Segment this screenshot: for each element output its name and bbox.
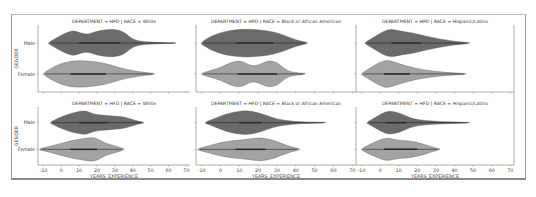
x-tick-label: 30 <box>433 168 439 173</box>
x-tick-label: 20 <box>414 168 420 173</box>
panel-title: DEPARTMENT = HPD | RACE = Hispanic/Latin… <box>382 19 488 25</box>
panel-title: DEPARTMENT = HPD | RACE = White <box>72 19 156 25</box>
x-tick-label: 10 <box>76 168 82 173</box>
x-tick-label: 60 <box>330 168 336 173</box>
x-tick-label: 50 <box>312 168 318 173</box>
y-tick-label: Male <box>24 41 35 46</box>
panel-title: DEPARTMENT = HPD | RACE = Black or Afric… <box>211 19 341 25</box>
x-tick-label: 0 <box>379 168 382 173</box>
facet-panel-6: DEPARTMENT = HFD | RACE = Hispanic/Latin… <box>355 101 515 181</box>
x-tick-label: 50 <box>470 168 476 173</box>
panel-title: DEPARTMENT = HFD | RACE = White <box>72 101 156 107</box>
x-tick-label: 70 <box>507 168 513 173</box>
x-tick-label: 30 <box>274 168 280 173</box>
x-tick-label: 10 <box>396 168 402 173</box>
y-tick-label: Male <box>24 120 35 125</box>
facet-panel-3: DEPARTMENT = HPD | RACE = Hispanic/Latin… <box>355 19 515 94</box>
x-tick-label: 40 <box>130 168 136 173</box>
panel-title: DEPARTMENT = HFD | RACE = Black or Afric… <box>211 101 341 107</box>
x-tick-label: -10 <box>198 168 206 173</box>
facet-grid-figure: DEPARTMENT = HPD | RACE = WhiteMaleFemal… <box>11 14 526 180</box>
x-tick-label: -10 <box>358 168 366 173</box>
facet-panel-2: DEPARTMENT = HPD | RACE = Black or Afric… <box>195 19 357 94</box>
x-tick-label: 0 <box>219 168 222 173</box>
x-tick-label: 40 <box>451 168 457 173</box>
x-tick-label: 60 <box>489 168 495 173</box>
y-axis-label: GENDER <box>14 125 19 146</box>
x-tick-label: 10 <box>236 168 242 173</box>
x-tick-label: 0 <box>60 168 63 173</box>
facet-panel-5: DEPARTMENT = HFD | RACE = Black or Afric… <box>195 101 357 181</box>
y-tick-label: Female <box>18 72 35 77</box>
x-tick-label: 40 <box>293 168 299 173</box>
facet-panel-4: DEPARTMENT = HFD | RACE = White-10010203… <box>14 101 190 181</box>
y-tick-label: Female <box>18 147 35 152</box>
x-tick-label: 20 <box>94 168 100 173</box>
x-axis-label: YEARS_EXPERIENCE <box>410 174 459 180</box>
panel-title: DEPARTMENT = HFD | RACE = Hispanic/Latin… <box>382 101 488 107</box>
facet-panel-1: DEPARTMENT = HPD | RACE = WhiteMaleFemal… <box>14 19 190 94</box>
x-axis-label: YEARS_EXPERIENCE <box>251 174 300 180</box>
x-axis-label: YEARS_EXPERIENCE <box>89 174 138 180</box>
x-tick-label: 30 <box>112 168 118 173</box>
x-tick-label: -10 <box>39 168 47 173</box>
x-tick-label: 50 <box>148 168 154 173</box>
y-axis-label: GENDER <box>14 48 19 69</box>
x-tick-label: 70 <box>183 168 189 173</box>
violin-facet-plot: DEPARTMENT = HPD | RACE = WhiteMaleFemal… <box>12 15 527 181</box>
x-tick-label: 70 <box>349 168 355 173</box>
x-tick-label: 60 <box>165 168 171 173</box>
x-tick-label: 20 <box>255 168 261 173</box>
